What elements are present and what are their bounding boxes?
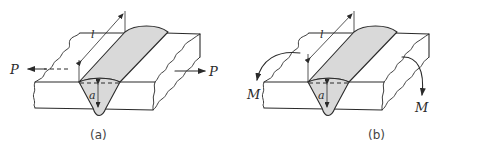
moment-label-right: M	[414, 100, 429, 115]
force-label-right: P	[208, 64, 218, 79]
moment-label-left: M	[246, 87, 261, 102]
caption-a: (a)	[90, 128, 107, 142]
left-moment-arrow: M	[246, 52, 300, 102]
panel-b: a l M M (b)	[246, 11, 429, 142]
right-moment-arrow: M	[402, 57, 429, 115]
throat-label: a	[318, 89, 325, 102]
weld-diagram: a l P P (a)	[0, 0, 480, 154]
left-force-arrow: P	[9, 62, 68, 77]
length-label: l	[320, 28, 324, 41]
weld-cross-section	[308, 78, 349, 115]
length-label: l	[91, 28, 95, 41]
caption-b: (b)	[368, 128, 385, 142]
force-label-left: P	[9, 62, 19, 77]
weld-cross-section	[79, 78, 120, 115]
panel-a: a l P P (a)	[9, 11, 218, 142]
right-force-arrow: P	[175, 64, 218, 79]
throat-label: a	[89, 89, 96, 102]
